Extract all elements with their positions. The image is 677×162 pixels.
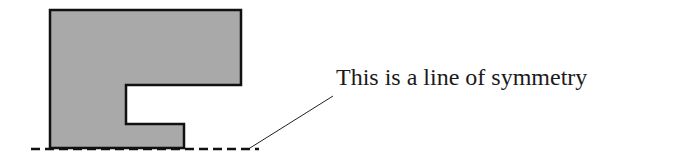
symmetry-label: This is a line of symmetry <box>336 64 587 91</box>
leader-line <box>250 96 333 148</box>
grey-shape <box>50 10 241 148</box>
